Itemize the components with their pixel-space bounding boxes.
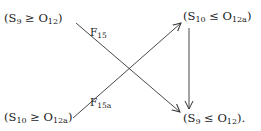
node-bottom-left: (S10 ≥ O12a) — [4, 110, 72, 124]
node-text: ≤ O — [200, 111, 226, 125]
subscript: 12 — [48, 17, 58, 26]
node-text: (S — [183, 111, 195, 125]
node-text: ). — [237, 111, 245, 125]
node-text: (S — [4, 11, 16, 25]
node-text: ) — [68, 110, 73, 124]
edge-label-f15a: F15a — [90, 96, 111, 108]
node-text: (S — [183, 9, 195, 23]
subscript: 12 — [227, 117, 237, 126]
node-text: ≥ O — [27, 110, 53, 124]
subscript: 15a — [97, 101, 111, 110]
node-text: ) — [247, 9, 252, 23]
node-text: ≥ O — [21, 11, 47, 25]
node-top-right: (S10 ≤ O12a) — [183, 9, 251, 23]
edge-label-f15: F15 — [90, 26, 107, 38]
node-text: (S — [4, 110, 16, 124]
subscript: 15 — [97, 31, 107, 40]
subscript: 10 — [16, 116, 26, 125]
node-text: ) — [58, 11, 63, 25]
node-bottom-right: (S9 ≤ O12). — [183, 111, 245, 125]
subscript: 10 — [195, 15, 205, 24]
node-top-left: (S9 ≥ O12) — [4, 11, 63, 25]
subscript: 12a — [53, 116, 68, 125]
subscript: 12a — [232, 15, 247, 24]
node-text: ≤ O — [206, 9, 232, 23]
